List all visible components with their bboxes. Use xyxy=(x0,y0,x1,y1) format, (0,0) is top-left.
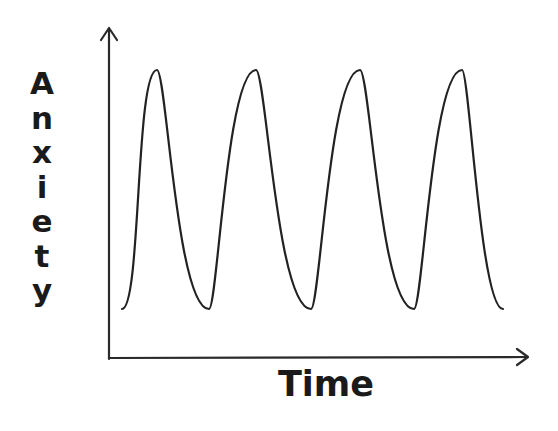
y-label-letter: t xyxy=(35,239,50,274)
y-axis xyxy=(101,28,117,359)
anxiety-line xyxy=(122,70,503,309)
y-label-letter: i xyxy=(37,170,48,205)
y-axis-label: A n x i e t y xyxy=(22,66,62,308)
y-label-letter: n xyxy=(31,101,53,136)
y-label-letter: x xyxy=(32,135,52,170)
y-label-letter: y xyxy=(32,273,52,308)
y-label-letter: A xyxy=(30,66,54,101)
x-axis-label: Time xyxy=(278,364,374,404)
x-axis xyxy=(109,349,528,365)
y-label-letter: e xyxy=(31,204,52,239)
